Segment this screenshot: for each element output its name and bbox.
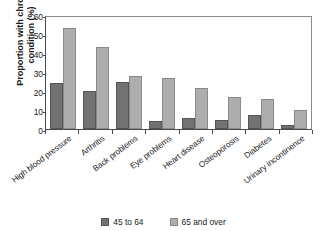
bar <box>182 118 195 129</box>
y-tick-label: 40 <box>19 50 43 60</box>
bar <box>63 28 76 129</box>
bar-group <box>112 17 145 129</box>
bar <box>228 97 241 129</box>
bar <box>50 83 63 129</box>
bar <box>149 121 162 129</box>
legend-item[interactable]: 45 to 64 <box>101 217 143 227</box>
plot-area: 0102030405060 <box>45 16 312 130</box>
y-tick-label: 60 <box>19 12 43 22</box>
bar <box>116 82 129 129</box>
y-tick-label: 30 <box>19 69 43 79</box>
x-axis-label: Arthritis <box>79 134 106 158</box>
bar <box>215 120 228 130</box>
bar-group <box>278 17 311 129</box>
bar-chart: Proportion with chronic condition (%) 01… <box>0 0 327 231</box>
bar <box>129 76 142 129</box>
x-axis-label: Urinary incontinence <box>243 134 307 186</box>
bar <box>294 110 307 129</box>
bar <box>281 125 294 129</box>
legend-label: 45 to 64 <box>113 217 143 227</box>
legend-item[interactable]: 65 and over <box>170 217 226 227</box>
bar-groups <box>46 17 311 129</box>
bar <box>261 99 274 129</box>
legend-label: 65 and over <box>182 217 226 227</box>
x-axis-labels: High blood pressureArthritisBack problem… <box>0 130 327 198</box>
chart-legend: 45 to 6465 and over <box>0 217 327 227</box>
bar-group <box>179 17 212 129</box>
x-axis-label: High blood pressure <box>10 134 73 185</box>
bar-group <box>212 17 245 129</box>
legend-swatch <box>170 218 178 226</box>
bar <box>83 91 96 129</box>
bar-group <box>46 17 79 129</box>
bar-group <box>79 17 112 129</box>
bar-group <box>245 17 278 129</box>
bar <box>195 88 208 129</box>
x-axis-label: Diabetes <box>242 134 273 160</box>
legend-swatch <box>101 218 109 226</box>
bar-group <box>145 17 178 129</box>
y-tick-label: 10 <box>19 107 43 117</box>
bar <box>96 47 109 129</box>
bar <box>248 115 261 129</box>
bar <box>162 78 175 129</box>
y-tick-label: 20 <box>19 88 43 98</box>
y-tick-label: 50 <box>19 31 43 41</box>
